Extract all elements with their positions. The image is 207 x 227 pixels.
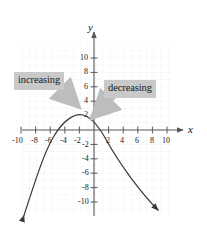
- graph-figure: -10 -8 -6 -4 -2 2 4 6 8 10 10 8 6 4 2 -2…: [0, 0, 207, 227]
- y-tick-label-10: 10: [80, 54, 88, 62]
- x-tick-label-10: 10: [162, 137, 170, 145]
- y-tick-label-6: 6: [84, 83, 88, 91]
- x-tick-label--2: -2: [74, 137, 81, 145]
- x-tick-label--6: -6: [45, 137, 52, 145]
- y-tick-label--2: -2: [82, 141, 89, 149]
- y-tick-label--4: -4: [82, 155, 89, 163]
- x-tick-label-2: 2: [106, 137, 110, 145]
- y-tick-label--6: -6: [82, 169, 89, 177]
- x-axis-label: x: [188, 124, 193, 135]
- annotation-decreasing: decreasing: [104, 80, 156, 98]
- y-tick-label--10: -10: [78, 198, 89, 206]
- x-tick-label--4: -4: [60, 137, 67, 145]
- y-tick-label-2: 2: [84, 111, 88, 119]
- annotation-increasing: increasing: [14, 72, 64, 90]
- x-tick-label--8: -8: [31, 137, 38, 145]
- y-axis-label: y: [88, 22, 93, 33]
- x-tick-label--10: -10: [12, 137, 23, 145]
- coordinate-plane: [0, 0, 207, 227]
- x-tick-label-8: 8: [150, 137, 154, 145]
- y-tick-label--8: -8: [82, 184, 89, 192]
- x-tick-label-6: 6: [135, 137, 139, 145]
- y-tick-label-4: 4: [84, 97, 88, 105]
- y-tick-label-8: 8: [84, 68, 88, 76]
- x-tick-label-4: 4: [120, 137, 124, 145]
